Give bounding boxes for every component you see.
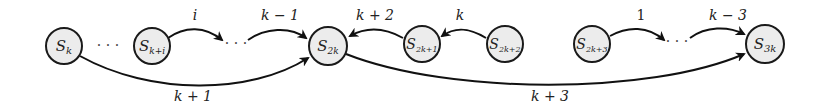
ellipsis-1: · · · bbox=[97, 37, 119, 53]
edge-label-i: i bbox=[193, 7, 197, 23]
node-s-3k: S3k bbox=[746, 25, 784, 63]
edge-ski-to-dots bbox=[168, 29, 222, 40]
edge-sk-to-s2k bbox=[80, 56, 308, 86]
node-s-k: Sk bbox=[46, 28, 82, 64]
edge-s2k2-to-s2k1 bbox=[442, 29, 486, 38]
edge-label-k-plus-2: k + 2 bbox=[356, 7, 394, 23]
edge-label-k-minus-3: k − 3 bbox=[709, 7, 747, 23]
state-diagram: i k − 1 k + 1 k + 2 k k + 3 1 k − 3 · · … bbox=[0, 0, 828, 110]
edge-s2k3-to-dots bbox=[610, 29, 664, 40]
edge-s2k1-to-s2k bbox=[350, 29, 403, 38]
node-s-2k-plus-2: S2k+2 bbox=[487, 26, 523, 62]
edge-label-1: 1 bbox=[637, 7, 646, 23]
node-s-2k-plus-3: S2k+3 bbox=[574, 26, 610, 62]
edge-dots-to-s3k bbox=[690, 28, 744, 38]
edge-s2k-to-s3k bbox=[346, 54, 744, 85]
node-s-2k-plus-1: S2k+1 bbox=[404, 26, 440, 62]
edge-dots-to-s2k bbox=[248, 30, 306, 40]
ellipsis-3: · · · bbox=[666, 33, 688, 49]
ellipsis-2: · · · bbox=[225, 35, 247, 51]
edge-label-k-plus-1: k + 1 bbox=[174, 88, 212, 104]
node-s-k-plus-i: Sk+i bbox=[134, 28, 170, 64]
edge-label-k-plus-3: k + 3 bbox=[531, 88, 569, 104]
node-s-2k: S2k bbox=[309, 27, 347, 65]
edge-label-k: k bbox=[456, 7, 464, 23]
edge-label-k-minus-1: k − 1 bbox=[261, 7, 299, 23]
